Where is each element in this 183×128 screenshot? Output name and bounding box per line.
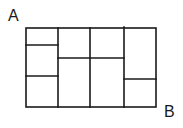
end-label-b: B [164, 104, 175, 120]
grid-diagram [0, 0, 183, 128]
outer-border [26, 28, 156, 107]
